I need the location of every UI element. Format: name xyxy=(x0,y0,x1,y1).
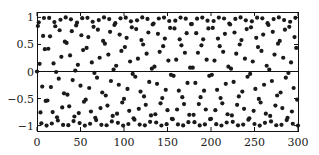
data-point xyxy=(130,25,134,29)
data-point xyxy=(60,105,64,109)
data-point xyxy=(290,109,294,113)
data-point xyxy=(237,94,241,98)
data-point xyxy=(212,58,216,62)
data-point xyxy=(292,35,296,39)
data-point xyxy=(64,15,68,19)
data-point xyxy=(91,25,95,29)
data-point xyxy=(45,98,49,102)
data-point xyxy=(168,26,172,30)
data-point xyxy=(216,36,220,40)
data-point xyxy=(269,119,273,123)
data-point xyxy=(71,119,75,123)
data-point xyxy=(113,21,117,25)
data-point xyxy=(71,78,75,82)
data-point xyxy=(69,17,73,21)
data-point xyxy=(232,30,236,34)
data-point xyxy=(199,43,203,47)
data-point xyxy=(98,106,102,110)
data-point xyxy=(262,83,266,87)
data-point xyxy=(106,52,110,56)
data-point xyxy=(102,15,106,19)
data-point xyxy=(164,88,168,92)
data-point xyxy=(83,123,87,127)
data-point xyxy=(179,43,183,47)
data-point xyxy=(231,120,235,124)
data-point xyxy=(174,58,178,62)
data-point xyxy=(84,46,88,50)
data-point xyxy=(171,74,175,78)
data-point xyxy=(202,89,206,93)
data-point xyxy=(234,52,238,56)
data-point xyxy=(220,101,224,105)
data-point xyxy=(203,122,207,126)
data-point xyxy=(41,34,45,38)
data-point xyxy=(143,123,147,127)
data-point xyxy=(270,79,274,83)
data-point xyxy=(122,97,126,101)
data-point xyxy=(294,46,298,50)
data-point xyxy=(44,123,48,127)
data-point xyxy=(87,86,91,90)
data-point xyxy=(114,64,118,68)
data-point xyxy=(178,37,182,41)
data-point xyxy=(221,50,225,54)
data-point xyxy=(249,25,253,29)
data-point xyxy=(57,77,61,81)
data-point xyxy=(197,102,201,106)
data-point xyxy=(196,51,200,55)
data-point xyxy=(161,44,165,48)
data-point xyxy=(243,57,247,61)
data-point xyxy=(268,114,272,118)
data-point xyxy=(136,57,140,61)
data-point xyxy=(184,17,188,21)
data-point xyxy=(193,81,197,85)
data-point xyxy=(105,123,109,127)
data-point xyxy=(278,39,282,43)
data-point xyxy=(86,35,90,39)
data-point xyxy=(264,112,268,116)
data-point xyxy=(201,37,205,41)
data-point xyxy=(255,16,259,20)
data-point xyxy=(100,90,104,94)
data-point xyxy=(274,123,278,127)
data-point xyxy=(261,32,265,36)
data-point xyxy=(107,17,111,21)
data-point xyxy=(167,19,171,23)
data-point xyxy=(186,120,190,124)
data-point xyxy=(198,95,202,99)
data-point xyxy=(251,59,255,63)
data-point xyxy=(89,109,93,113)
data-point xyxy=(103,42,107,46)
data-point xyxy=(279,90,283,94)
data-point xyxy=(123,45,127,49)
data-point xyxy=(192,113,196,117)
data-point xyxy=(229,67,233,71)
data-point xyxy=(224,82,228,86)
x-tick-label: 150 xyxy=(157,136,178,149)
x-tick-label: 0 xyxy=(34,136,41,149)
data-point xyxy=(191,66,195,70)
scatter-chart: 050100150200250300 −1−0.500.51 xyxy=(0,0,319,155)
data-point xyxy=(266,23,270,27)
data-point xyxy=(178,15,182,19)
x-tick-label: 100 xyxy=(114,136,135,149)
x-tick-label: 250 xyxy=(244,136,265,149)
data-point xyxy=(236,123,240,127)
data-point xyxy=(192,120,196,124)
data-point xyxy=(195,17,199,21)
data-point xyxy=(219,123,223,127)
data-point xyxy=(58,18,62,22)
data-point xyxy=(242,107,246,111)
data-point xyxy=(218,44,222,48)
data-point xyxy=(185,81,189,85)
data-point xyxy=(225,112,229,116)
data-point xyxy=(233,17,237,21)
data-point xyxy=(146,30,150,34)
data-point xyxy=(258,100,262,104)
data-point xyxy=(138,89,142,93)
data-point xyxy=(38,62,42,66)
data-point xyxy=(148,120,152,124)
data-point xyxy=(111,114,115,118)
data-point xyxy=(147,80,151,84)
data-point xyxy=(166,58,170,62)
